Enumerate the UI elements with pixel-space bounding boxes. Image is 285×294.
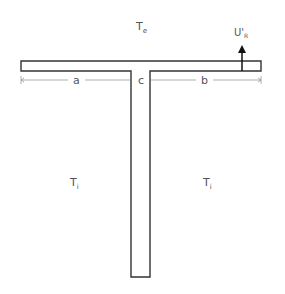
dimension-a-label: a — [73, 74, 80, 87]
dimension-b-label: b — [201, 74, 208, 87]
interior-temp-right-label: Ti — [202, 176, 212, 191]
heat-flux-arrow-icon — [238, 45, 246, 71]
heat-flux-label: U'R — [234, 27, 248, 39]
interior-temp-left-label: Ti — [69, 176, 79, 191]
dimension-c-label: c — [138, 74, 144, 87]
exterior-temp-label: Te — [135, 20, 147, 35]
t-section-outline — [21, 61, 261, 277]
t-section-diagram: Te U'R a c b Ti Ti — [0, 0, 285, 294]
